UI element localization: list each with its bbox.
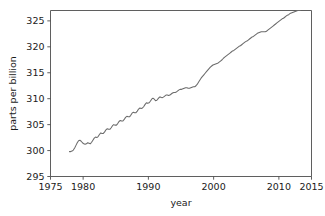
x-tick-label: 1990 [136,181,160,192]
plot-frame [51,11,312,177]
y-axis-ticks: 295300305310315320325 [26,15,50,182]
x-tick-label: 2015 [299,181,323,192]
y-tick-label: 305 [26,119,44,130]
x-tick-label: 2000 [202,181,226,192]
x-axis-ticks: 197519801990200020102015 [38,177,323,193]
y-axis-label: parts per billion [7,56,18,131]
line-chart: 295300305310315320325 197519801990200020… [0,0,325,216]
y-tick-label: 320 [26,41,44,52]
y-tick-label: 325 [26,15,44,26]
x-tick-label: 2010 [267,181,291,192]
chart-figure: 295300305310315320325 197519801990200020… [0,0,325,216]
x-axis-label: year [170,197,191,208]
y-tick-label: 310 [26,93,44,104]
x-tick-label: 1980 [71,181,95,192]
x-tick-label: 1975 [38,181,62,192]
data-line-nitrous-oxide [69,11,300,152]
data-series-group [69,11,300,152]
y-tick-label: 315 [26,67,44,78]
y-tick-label: 300 [26,145,44,156]
